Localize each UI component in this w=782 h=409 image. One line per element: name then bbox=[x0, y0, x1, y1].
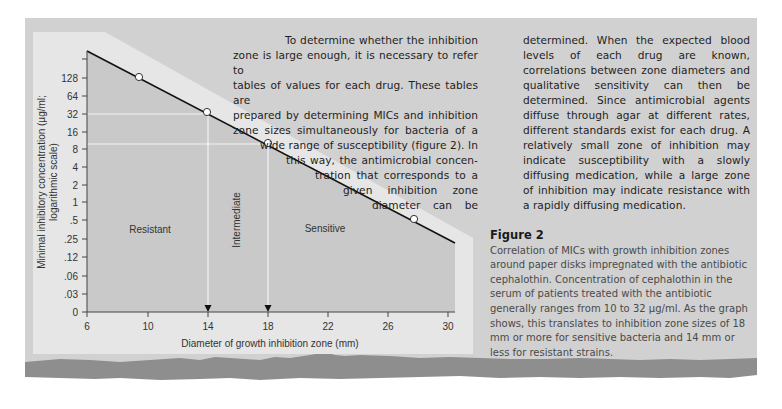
text-line: zone sizes simultaneously for bacteria o… bbox=[233, 123, 478, 138]
svg-text:logarithmic scale): logarithmic scale) bbox=[48, 143, 59, 221]
svg-text:.06: .06 bbox=[64, 271, 78, 282]
svg-text:18: 18 bbox=[262, 321, 274, 332]
data-point bbox=[410, 215, 417, 222]
text-line: tration that corresponds to a bbox=[315, 168, 478, 183]
svg-text:4: 4 bbox=[72, 162, 78, 173]
svg-text:1: 1 bbox=[72, 197, 78, 208]
svg-text:16: 16 bbox=[67, 127, 79, 138]
caption-text: Correlation of MICs with growth inhibiti… bbox=[490, 244, 755, 361]
svg-text:6: 6 bbox=[84, 321, 90, 332]
svg-text:64: 64 bbox=[67, 91, 79, 102]
svg-text:0: 0 bbox=[72, 307, 78, 318]
svg-text:Minimal inhibitory concentrati: Minimal inhibitory concentration (µg/ml; bbox=[36, 95, 47, 269]
x-axis-label: Diameter of growth inhibition zone (mm) bbox=[181, 338, 358, 349]
svg-text:.12: .12 bbox=[64, 252, 78, 263]
text-line: zone is large enough, it is necessary to… bbox=[233, 48, 478, 78]
svg-text:10: 10 bbox=[142, 321, 154, 332]
svg-text:128: 128 bbox=[61, 73, 78, 84]
text-line: wide range of susceptibility (figure 2).… bbox=[260, 138, 478, 153]
svg-text:2: 2 bbox=[72, 180, 78, 191]
svg-text:30: 30 bbox=[442, 321, 454, 332]
region-label-sensitive: Sensitive bbox=[305, 223, 346, 234]
text-line: prepared by determining MICs and inhibit… bbox=[233, 108, 478, 123]
svg-text:22: 22 bbox=[322, 321, 334, 332]
body-text-column-1: To determine whether the inhibition zone… bbox=[233, 33, 478, 213]
paragraph: determined. When the expected blood leve… bbox=[523, 33, 750, 213]
text-line: tables of values for each drug. These ta… bbox=[233, 78, 478, 108]
svg-text:.5: .5 bbox=[70, 215, 79, 226]
text-line: To determine whether the inhibition bbox=[285, 33, 478, 48]
figure-caption: Figure 2 Correlation of MICs with growth… bbox=[490, 228, 755, 360]
region-label-resistant: Resistant bbox=[129, 224, 171, 235]
text-line: this way, the antimicrobial concen- bbox=[286, 153, 478, 168]
svg-text:.03: .03 bbox=[64, 289, 78, 300]
caption-title: Figure 2 bbox=[490, 228, 755, 243]
text-line: given inhibition zone bbox=[343, 183, 478, 198]
text-line: diameter can be bbox=[372, 198, 478, 213]
svg-text:.25: .25 bbox=[64, 234, 78, 245]
data-point bbox=[135, 73, 142, 80]
data-point bbox=[203, 108, 210, 115]
page: 128 64 32 16 8 4 2 1 .5 .25 .12 .06 .03 … bbox=[0, 0, 782, 409]
svg-text:8: 8 bbox=[72, 144, 78, 155]
body-text-column-2: determined. When the expected blood leve… bbox=[523, 33, 750, 213]
svg-text:14: 14 bbox=[202, 321, 214, 332]
svg-text:32: 32 bbox=[67, 109, 79, 120]
svg-text:26: 26 bbox=[382, 321, 394, 332]
